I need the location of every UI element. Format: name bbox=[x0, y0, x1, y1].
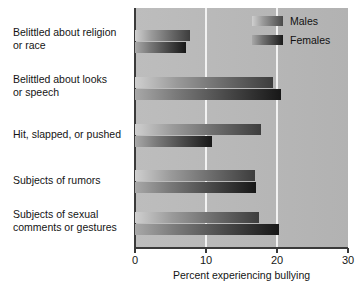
category-label-sexual-comments: Subjects of sexual comments or gestures bbox=[13, 208, 131, 233]
category-label-subjects-of-rumors: Subjects of rumors bbox=[13, 174, 131, 187]
bar-females-group-0 bbox=[135, 42, 186, 53]
category-label-hit-slapped-pushed: Hit, slapped, or pushed bbox=[13, 128, 131, 141]
x-axis-title: Percent experiencing bullying bbox=[135, 269, 348, 282]
x-tick-30 bbox=[347, 248, 349, 253]
bar-males-group-2 bbox=[135, 124, 261, 135]
category-label-line: Hit, slapped, or pushed bbox=[13, 128, 131, 141]
bar-males-group-1 bbox=[135, 77, 273, 88]
bar-males-group-4 bbox=[135, 212, 259, 223]
bar-females-group-2 bbox=[135, 136, 212, 147]
x-tick-label-20: 20 bbox=[265, 254, 289, 267]
category-label-line: or race bbox=[13, 39, 131, 52]
legend-swatch-females-icon bbox=[252, 35, 283, 45]
x-tick-0 bbox=[134, 248, 136, 253]
category-label-line: Belittled about religion bbox=[13, 26, 131, 39]
bar-females-group-3 bbox=[135, 182, 256, 193]
x-tick-label-10: 10 bbox=[194, 254, 218, 267]
bar-chart: 0 10 20 30 Belittled about religion or r… bbox=[0, 0, 355, 288]
category-label-line: Belittled about looks bbox=[13, 73, 131, 86]
bar-females-group-4 bbox=[135, 224, 279, 235]
bar-males-group-3 bbox=[135, 170, 255, 181]
legend-label-females: Females bbox=[290, 34, 330, 46]
category-label-line: comments or gestures bbox=[13, 221, 131, 234]
bar-females-group-1 bbox=[135, 89, 281, 100]
legend: Males Females bbox=[252, 14, 348, 52]
category-label-looks-or-speech: Belittled about looks or speech bbox=[13, 73, 131, 98]
x-tick-label-30: 30 bbox=[336, 254, 355, 267]
x-tick-10 bbox=[205, 248, 207, 253]
x-tick-label-0: 0 bbox=[123, 254, 147, 267]
legend-swatch-males-icon bbox=[252, 16, 283, 26]
bar-males-group-0 bbox=[135, 30, 190, 41]
legend-item-females[interactable]: Females bbox=[252, 33, 348, 46]
category-label-line: or speech bbox=[13, 86, 131, 99]
x-tick-20 bbox=[276, 248, 278, 253]
legend-label-males: Males bbox=[290, 15, 318, 27]
legend-item-males[interactable]: Males bbox=[252, 14, 348, 27]
category-label-line: Subjects of sexual bbox=[13, 208, 131, 221]
category-label-line: Subjects of rumors bbox=[13, 174, 131, 187]
x-axis-line bbox=[134, 247, 348, 249]
category-label-religion-or-race: Belittled about religion or race bbox=[13, 26, 131, 51]
